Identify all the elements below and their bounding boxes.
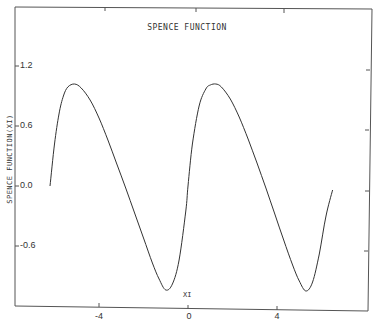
x-tick-label: 0 <box>186 311 191 321</box>
plot-frame <box>15 7 372 311</box>
y-tick-label: 0.6 <box>20 120 33 130</box>
y-tick-label: 0.0 <box>20 180 33 190</box>
x-tick-label: -4 <box>95 311 103 321</box>
y-axis-label: SPENCE FUNCTION(XI) <box>6 109 14 209</box>
x-axis-label: XI <box>183 291 191 299</box>
spence-function-chart <box>0 0 374 322</box>
y-tick-label: 1.2 <box>20 60 33 70</box>
spence-curve <box>50 84 333 291</box>
y-tick-label: -0.6 <box>20 240 36 250</box>
x-tick-label: 4 <box>274 311 279 321</box>
chart-title: SPENCE FUNCTION <box>0 23 374 32</box>
